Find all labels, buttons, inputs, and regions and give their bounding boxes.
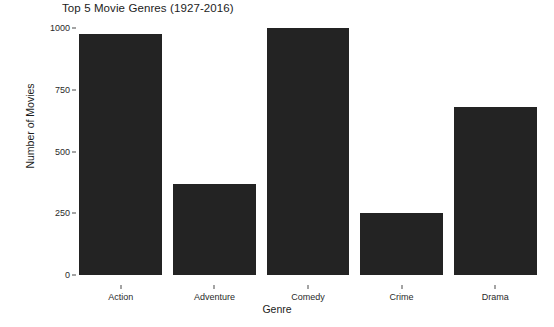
x-tick-mark <box>120 285 121 289</box>
x-tick-mark <box>214 285 215 289</box>
x-tick-label-action: Action <box>108 292 133 302</box>
y-axis-ticks: 02505007501000 <box>0 0 80 327</box>
y-tick-label: 500 <box>55 147 70 157</box>
y-tick-label: 250 <box>55 208 70 218</box>
plot-area <box>74 28 542 275</box>
bar-chart-figure: Top 5 Movie Genres (1927-2016) Number of… <box>0 0 554 327</box>
y-tick-label: 0 <box>65 270 70 280</box>
x-tick-label-adventure: Adventure <box>194 292 235 302</box>
x-tick-mark <box>401 285 402 289</box>
bar-adventure <box>173 184 256 275</box>
x-tick-label-comedy: Comedy <box>291 292 325 302</box>
bar-action <box>79 34 162 275</box>
x-tick-label-crime: Crime <box>390 292 414 302</box>
x-axis-label: Genre <box>0 303 554 315</box>
bar-drama <box>454 107 537 275</box>
bar-comedy <box>267 28 350 275</box>
x-tick-mark <box>495 285 496 289</box>
y-tick-label: 1000 <box>50 23 70 33</box>
chart-title: Top 5 Movie Genres (1927-2016) <box>62 2 234 14</box>
x-tick-mark <box>308 285 309 289</box>
x-tick-label-drama: Drama <box>482 292 509 302</box>
bar-crime <box>360 213 443 275</box>
y-tick-label: 750 <box>55 85 70 95</box>
